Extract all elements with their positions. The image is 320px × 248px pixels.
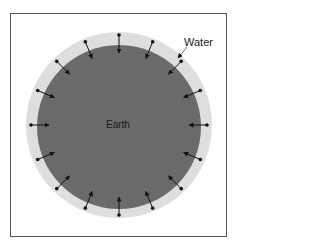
water-pointer-arrow bbox=[178, 47, 187, 58]
earth-label: Earth bbox=[106, 119, 130, 130]
water-label: Water bbox=[184, 36, 213, 48]
